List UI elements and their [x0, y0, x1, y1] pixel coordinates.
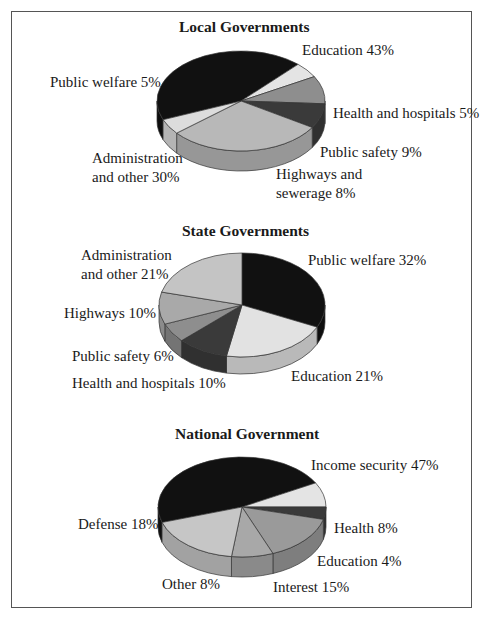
label-national-health: Health 8%	[334, 519, 398, 538]
label-local-admin-2: and other 30%	[92, 168, 179, 187]
label-local-admin-1: Administration	[92, 149, 183, 168]
label-state-admin-2: and other 21%	[81, 265, 168, 284]
label-state-public-welfare: Public welfare 32%	[308, 251, 426, 270]
chart-title-local: Local Governments	[179, 18, 309, 36]
label-local-public-welfare: Public welfare 5%	[50, 73, 161, 92]
label-national-other: Other 8%	[162, 575, 220, 594]
label-local-health: Health and hospitals 5%	[333, 104, 479, 123]
label-national-interest: Interest 15%	[273, 578, 349, 597]
label-local-highways-1: Highways and	[276, 165, 362, 184]
chart-title-state: State Governments	[182, 222, 309, 240]
label-national-education: Education 4%	[317, 552, 402, 571]
chart-title-national: National Government	[175, 425, 319, 443]
label-local-highways-2: sewerage 8%	[276, 184, 356, 203]
label-state-admin-1: Administration	[81, 246, 172, 265]
label-national-income: Income security 47%	[311, 456, 438, 475]
label-national-defense: Defense 18%	[78, 515, 158, 534]
label-state-highways: Highways 10%	[64, 304, 156, 323]
label-state-health: Health and hospitals 10%	[72, 374, 226, 393]
label-state-education: Education 21%	[291, 367, 383, 386]
label-local-education: Education 43%	[302, 41, 394, 60]
label-local-public-safety: Public safety 9%	[320, 143, 422, 162]
label-state-public-safety: Public safety 6%	[72, 347, 174, 366]
